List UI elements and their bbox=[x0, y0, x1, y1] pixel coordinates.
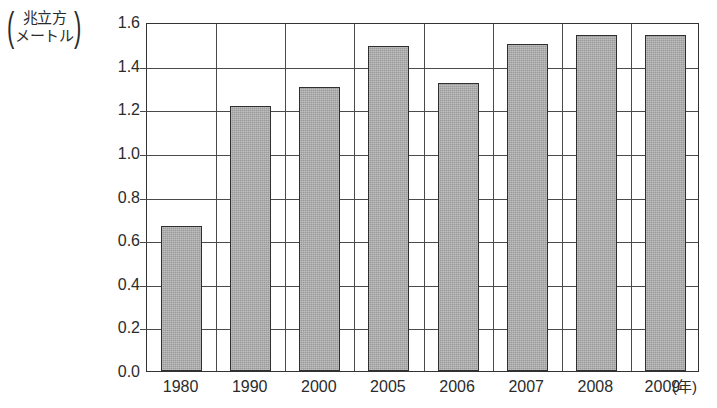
bar-2006 bbox=[438, 83, 479, 371]
bar-2007 bbox=[507, 44, 548, 371]
category-separator bbox=[354, 24, 355, 371]
y-tick-label: 0.6 bbox=[98, 233, 140, 249]
bar-1980 bbox=[161, 226, 202, 371]
y-tick-label: 1.6 bbox=[98, 15, 140, 31]
x-tick-label-2005: 2005 bbox=[370, 376, 406, 398]
x-tick-label-1980: 1980 bbox=[163, 376, 199, 398]
category-separator bbox=[562, 24, 563, 371]
x-axis-unit-label: (年) bbox=[672, 376, 697, 398]
y-tick-label: 1.2 bbox=[98, 102, 140, 118]
y-axis-unit-line-2: メートル bbox=[15, 27, 73, 45]
y-axis-unit-line-1: 兆立方 bbox=[23, 9, 67, 27]
y-tick-label: 1.0 bbox=[98, 146, 140, 162]
bar-2005 bbox=[368, 46, 409, 371]
bar-2009 bbox=[645, 35, 686, 371]
bar-1990 bbox=[230, 106, 271, 371]
y-tick-label: 0.4 bbox=[98, 277, 140, 293]
bar-2000 bbox=[299, 87, 340, 371]
bar-chart: ( 兆立方 メートル ) 0.0 0.2 0.4 0.6 0.8 1.0 1.2… bbox=[0, 0, 717, 408]
x-tick-label-2000: 2000 bbox=[301, 376, 337, 398]
y-tick-label: 0.8 bbox=[98, 190, 140, 206]
x-tick-label-2006: 2006 bbox=[439, 376, 475, 398]
plot-area bbox=[146, 23, 699, 372]
category-separator bbox=[631, 24, 632, 371]
x-tick-label-2008: 2008 bbox=[578, 376, 614, 398]
category-separator bbox=[493, 24, 494, 371]
paren-open: ( bbox=[7, 7, 14, 47]
x-tick-label-1990: 1990 bbox=[232, 376, 268, 398]
category-separator bbox=[285, 24, 286, 371]
y-axis-tick-layer: 0.0 0.2 0.4 0.6 0.8 1.0 1.2 1.4 1.6 bbox=[96, 23, 140, 372]
y-tick-label: 0.0 bbox=[98, 364, 140, 380]
y-tick-label: 1.4 bbox=[98, 59, 140, 75]
category-separator bbox=[216, 24, 217, 371]
bar-2008 bbox=[576, 35, 617, 371]
x-axis-tick-layer: 1980 1990 2000 2005 2006 2007 2008 2009 bbox=[146, 376, 699, 402]
x-tick-label-2007: 2007 bbox=[508, 376, 544, 398]
paren-close: ) bbox=[74, 7, 81, 47]
y-tick-label: 0.2 bbox=[98, 320, 140, 336]
category-separator bbox=[424, 24, 425, 371]
y-axis-unit-label: ( 兆立方 メートル ) bbox=[4, 2, 108, 52]
